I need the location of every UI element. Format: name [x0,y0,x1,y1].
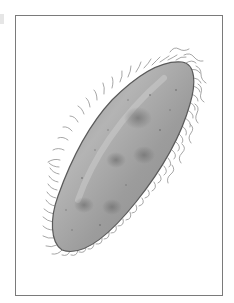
paramecium-illustration [0,0,234,303]
